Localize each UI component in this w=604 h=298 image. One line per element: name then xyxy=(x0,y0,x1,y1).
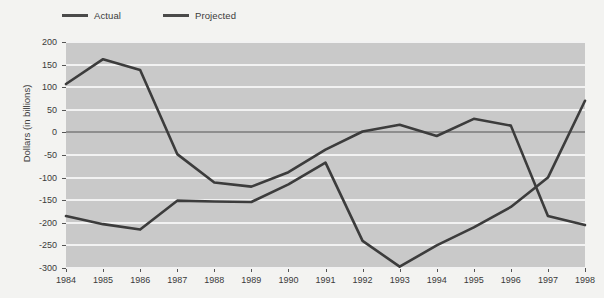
y-axis-tick-label: -100 xyxy=(0,173,57,183)
legend-swatch-projected xyxy=(163,14,189,17)
x-axis-tick-label: 1991 xyxy=(315,275,335,285)
legend-label-projected: Projected xyxy=(195,10,236,21)
x-axis-tick-label: 1985 xyxy=(93,275,113,285)
legend-swatch-actual xyxy=(62,14,88,17)
x-axis-tick-label: 1984 xyxy=(56,275,76,285)
series-lines xyxy=(66,42,585,268)
chart-figure: Actual Projected Dollars (in billions) 2… xyxy=(0,0,604,298)
x-axis-tick-label: 1998 xyxy=(575,275,595,285)
x-axis-tick-mark xyxy=(585,268,586,272)
y-axis-tick-label: -50 xyxy=(0,150,57,160)
y-axis-tick-label: 150 xyxy=(0,60,57,70)
legend-item-actual: Actual xyxy=(62,10,121,21)
y-axis-tick-label: -250 xyxy=(0,240,57,250)
x-axis-tick-label: 1986 xyxy=(130,275,150,285)
x-axis-tick-label: 1995 xyxy=(464,275,484,285)
x-axis-tick-label: 1990 xyxy=(278,275,298,285)
x-axis-tick-label: 1989 xyxy=(241,275,261,285)
y-axis-tick-label: 100 xyxy=(0,82,57,92)
series-line-projected xyxy=(66,59,585,225)
x-axis-tick-label: 1997 xyxy=(538,275,558,285)
y-axis-tick-label: 50 xyxy=(0,105,57,115)
y-axis-tick-label: 200 xyxy=(0,37,57,47)
x-axis-tick-label: 1988 xyxy=(204,275,224,285)
x-axis-tick-label: 1987 xyxy=(167,275,187,285)
legend-item-projected: Projected xyxy=(163,10,236,21)
x-axis-tick-label: 1994 xyxy=(427,275,447,285)
plot-area xyxy=(66,42,585,268)
x-axis-tick-label: 1996 xyxy=(501,275,521,285)
legend-label-actual: Actual xyxy=(94,10,121,21)
x-axis-tick-label: 1993 xyxy=(390,275,410,285)
y-axis-tick-label: -200 xyxy=(0,218,57,228)
x-axis-tick-label: 1992 xyxy=(353,275,373,285)
chart-legend: Actual Projected xyxy=(0,10,604,32)
y-axis-tick-label: 0 xyxy=(0,127,57,137)
y-axis-tick-label: -150 xyxy=(0,195,57,205)
y-axis-tick-label: -300 xyxy=(0,263,57,273)
